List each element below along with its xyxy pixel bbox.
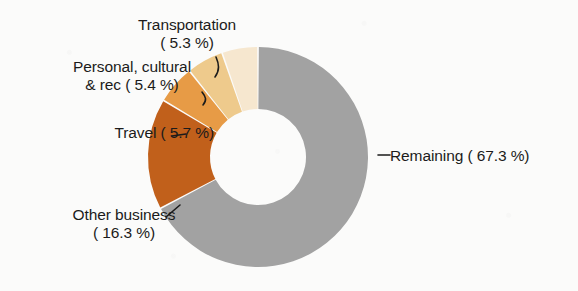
slice-label-remaining: Remaining ( 67.3 %)	[390, 147, 570, 165]
slice-label-other-business-line2: ( 16.3 %)	[36, 224, 212, 242]
slice-label-transportation-line2: ( 5.3 %)	[92, 34, 282, 52]
slice-label-other-business: Other business ( 16.3 %)	[36, 206, 212, 242]
slice-label-travel-line1: Travel ( 5.7 %)	[24, 124, 214, 142]
slice-label-personal-cultural-rec: Personal, cultural & rec ( 5.4 %)	[16, 58, 248, 94]
slice-label-transportation: Transportation ( 5.3 %)	[92, 16, 282, 52]
donut-chart: Transportation ( 5.3 %) Personal, cultur…	[0, 0, 578, 291]
slice-label-other-business-line1: Other business	[36, 206, 212, 224]
slice-label-travel: Travel ( 5.7 %)	[24, 124, 214, 142]
slice-label-transportation-line1: Transportation	[92, 16, 282, 34]
slice-label-personal-line1: Personal, cultural	[16, 58, 248, 76]
donut-chart-svg	[0, 0, 578, 291]
slice-label-remaining-line1: Remaining ( 67.3 %)	[390, 147, 570, 165]
slice-label-personal-line2: & rec ( 5.4 %)	[16, 76, 248, 94]
